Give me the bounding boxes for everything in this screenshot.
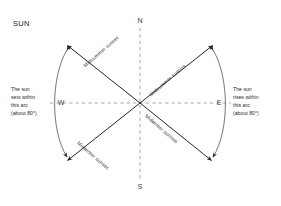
ray-midwinter-sunrise	[140, 103, 212, 161]
cardinal-west-label: W	[54, 99, 68, 106]
note-sunrise-arc: The sun rises within this arc (about 80°…	[233, 86, 259, 118]
note-sunset-line-3: this arc	[11, 102, 37, 110]
figure-title: SUN	[13, 19, 30, 28]
cardinal-south-label: S	[133, 183, 147, 190]
cardinal-north-label: N	[133, 17, 147, 24]
note-sunrise-line-2: rises within	[233, 94, 259, 102]
ray-midsummer-sunset	[68, 46, 141, 104]
note-sunrise-line-1: The sun	[233, 86, 259, 94]
note-sunset-line-2: sets within	[11, 94, 37, 102]
ray-midwinter-sunset	[68, 103, 141, 161]
cardinal-east-label: E	[212, 99, 226, 106]
sun-path-diagram: SUN N S W E The sun sets within this arc…	[0, 0, 281, 206]
note-sunrise-line-3: this arc	[233, 102, 259, 110]
note-sunset-line-1: The sun	[11, 86, 37, 94]
note-sunset-line-4: (about 80°)	[11, 110, 37, 118]
note-sunrise-line-4: (about 80°)	[233, 110, 259, 118]
note-sunset-arc: The sun sets within this arc (about 80°)	[11, 86, 37, 118]
